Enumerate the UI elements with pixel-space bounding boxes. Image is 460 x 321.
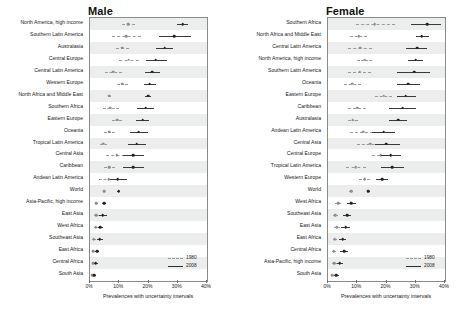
x-tick-label: 20% bbox=[142, 283, 152, 289]
category-label: Andean Latin America bbox=[271, 128, 321, 133]
legend-label: 1980 bbox=[424, 256, 435, 261]
data-point-marker bbox=[95, 262, 98, 265]
data-point-marker bbox=[109, 106, 112, 109]
row-band bbox=[328, 42, 445, 54]
data-point-marker bbox=[341, 238, 344, 241]
category-label: Central Latin America bbox=[272, 44, 321, 49]
data-point-marker bbox=[144, 106, 147, 109]
x-tick-label: 0% bbox=[85, 283, 92, 289]
category-label: South Asia bbox=[297, 271, 321, 276]
legend-male: 19802008 bbox=[168, 254, 197, 270]
x-tick-label: 20% bbox=[380, 283, 390, 289]
category-label: Southern Africa bbox=[48, 104, 83, 109]
data-point-marker bbox=[116, 154, 119, 157]
data-point-marker bbox=[163, 47, 166, 50]
category-label: East Africa bbox=[59, 248, 83, 253]
x-axis-title-female: Prevalences with uncertainty intervals bbox=[341, 293, 431, 299]
data-point-marker bbox=[132, 154, 135, 157]
category-label: Australasia bbox=[58, 44, 83, 49]
data-point-marker bbox=[99, 226, 102, 229]
data-point-marker bbox=[404, 94, 407, 97]
category-label: Western Europe bbox=[284, 176, 321, 181]
legend-female: 19802008 bbox=[406, 254, 435, 270]
data-point-marker bbox=[117, 190, 120, 193]
row-band bbox=[90, 138, 207, 150]
data-point-marker bbox=[338, 262, 341, 265]
category-label: Central Asia bbox=[294, 140, 321, 145]
data-point-marker bbox=[358, 70, 361, 73]
data-point-marker bbox=[173, 35, 176, 38]
data-point-marker bbox=[350, 202, 353, 205]
category-label: Southern Latin America bbox=[30, 32, 83, 37]
data-point-marker bbox=[382, 94, 385, 97]
data-point-marker bbox=[407, 82, 410, 85]
legend-item-1980: 1980 bbox=[168, 254, 197, 262]
data-point-marker bbox=[116, 118, 119, 121]
data-point-marker bbox=[333, 238, 336, 241]
data-point-marker bbox=[151, 70, 154, 73]
data-point-marker bbox=[135, 142, 138, 145]
data-point-marker bbox=[127, 59, 130, 62]
data-point-marker bbox=[102, 214, 105, 217]
category-label: East Africa bbox=[297, 236, 321, 241]
data-point-marker bbox=[92, 238, 95, 241]
category-label: Western Europe bbox=[46, 80, 83, 85]
category-label: Asia-Pacific, high income bbox=[264, 260, 321, 265]
data-point-marker bbox=[116, 178, 119, 181]
data-point-marker bbox=[108, 94, 111, 97]
legend-swatch-2008 bbox=[406, 266, 421, 267]
category-label: West Africa bbox=[295, 200, 321, 205]
data-point-marker bbox=[98, 238, 101, 241]
data-point-marker bbox=[121, 82, 124, 85]
legend-item-2008: 2008 bbox=[168, 262, 197, 270]
panel-male: Male North America, high incomeSouthern … bbox=[0, 0, 230, 321]
category-label: South Asia bbox=[59, 271, 83, 276]
category-label: Central Europe bbox=[287, 152, 321, 157]
data-point-marker bbox=[354, 166, 357, 169]
category-label: North America, high income bbox=[20, 20, 83, 25]
category-label: Caribbean bbox=[59, 164, 83, 169]
data-point-marker bbox=[367, 190, 370, 193]
data-point-marker bbox=[141, 118, 144, 121]
data-point-marker bbox=[148, 82, 151, 85]
x-tick-label: 30% bbox=[410, 283, 420, 289]
category-label: East Asia bbox=[300, 224, 321, 229]
category-label: Eastern Europe bbox=[286, 92, 321, 97]
data-point-marker bbox=[94, 226, 97, 229]
data-point-marker bbox=[95, 214, 98, 217]
data-point-marker bbox=[391, 166, 394, 169]
data-point-marker bbox=[344, 226, 347, 229]
data-point-marker bbox=[356, 106, 359, 109]
data-point-marker bbox=[382, 130, 385, 133]
x-tick-label: 30% bbox=[172, 283, 182, 289]
data-point-marker bbox=[125, 35, 128, 38]
row-band bbox=[90, 185, 207, 197]
data-point-marker bbox=[155, 59, 158, 62]
data-point-marker bbox=[351, 82, 354, 85]
data-point-marker bbox=[420, 35, 423, 38]
category-label: Southeast Asia bbox=[49, 236, 83, 241]
data-point-marker bbox=[357, 35, 360, 38]
data-point-marker bbox=[96, 250, 99, 253]
data-point-marker bbox=[350, 190, 353, 193]
plot-area-male bbox=[89, 17, 208, 282]
data-point-marker bbox=[337, 202, 340, 205]
category-label: Oceania bbox=[302, 80, 321, 85]
x-tick-label: 0% bbox=[323, 283, 330, 289]
category-label: East Asia bbox=[62, 212, 83, 217]
data-point-marker bbox=[103, 202, 106, 205]
data-point-marker bbox=[359, 47, 362, 50]
row-band bbox=[328, 114, 445, 126]
data-point-marker bbox=[108, 130, 111, 133]
category-label: North America, high income bbox=[258, 56, 321, 61]
data-point-marker bbox=[181, 23, 184, 26]
data-point-marker bbox=[362, 130, 365, 133]
data-point-marker bbox=[413, 70, 416, 73]
data-point-marker bbox=[333, 250, 336, 253]
category-label: Oceania bbox=[64, 128, 83, 133]
data-point-marker bbox=[335, 226, 338, 229]
panel-title-male: Male bbox=[88, 5, 113, 17]
category-label: Caribbean bbox=[297, 104, 321, 109]
data-point-marker bbox=[385, 142, 388, 145]
category-label: Central Asia bbox=[56, 152, 83, 157]
